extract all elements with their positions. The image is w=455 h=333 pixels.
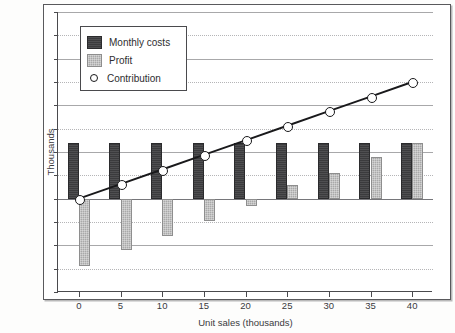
y-axis-title: Thousands (45, 128, 56, 175)
x-axis-tick (287, 292, 288, 297)
x-axis-tick (121, 292, 122, 297)
legend-label: Monthly costs (109, 37, 170, 48)
plot-area: $80$70$60$50$40$30$20$10$0-$10-$20-$30-$… (57, 12, 432, 292)
x-axis-tick (79, 292, 80, 297)
bar-swatch-gray-icon (87, 54, 102, 67)
x-axis-title: Unit sales (thousands) (58, 317, 433, 328)
contribution-data-point (158, 166, 168, 176)
legend-label: Profit (109, 55, 132, 66)
x-axis-tick-label: 15 (184, 300, 224, 311)
legend-label: Contribution (107, 73, 161, 84)
x-axis-tick-label: 5 (101, 300, 141, 311)
contribution-data-point (325, 107, 335, 117)
x-axis-tick (246, 292, 247, 297)
x-axis-tick-label: 0 (59, 300, 99, 311)
x-axis-tick-label: 25 (267, 300, 307, 311)
x-axis-tick (329, 292, 330, 297)
x-axis-tick (371, 292, 372, 297)
x-axis-tick-label: 10 (142, 300, 182, 311)
x-axis-tick (162, 292, 163, 297)
x-axis-tick-label: 20 (226, 300, 266, 311)
legend-item-monthly-costs: Monthly costs (87, 33, 186, 51)
contribution-data-point (117, 180, 127, 190)
contribution-data-point (75, 195, 85, 205)
x-axis-tick (204, 292, 205, 297)
y-axis-tick (54, 292, 58, 293)
chart-figure: $80$70$60$50$40$30$20$10$0-$10-$20-$30-$… (0, 0, 455, 333)
contribution-data-point (200, 151, 210, 161)
bar-swatch-dark-icon (87, 36, 102, 49)
x-axis-tick-label: 40 (392, 300, 432, 311)
legend-item-contribution: Contribution (87, 69, 186, 87)
x-axis-tick-label: 35 (351, 300, 391, 311)
contribution-data-point (367, 93, 377, 103)
x-axis-tick (412, 292, 413, 297)
chart-legend: Monthly costs Profit Contribution (80, 26, 187, 91)
x-axis-tick-label: 30 (309, 300, 349, 311)
open-circle-marker-icon (87, 73, 100, 84)
legend-item-profit: Profit (87, 51, 186, 69)
contribution-data-point (283, 122, 293, 132)
contribution-data-point (242, 136, 252, 146)
